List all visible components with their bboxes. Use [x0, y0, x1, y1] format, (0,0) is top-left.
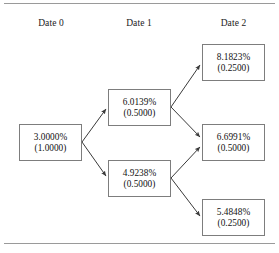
node-probability-value: (0.2500): [218, 218, 250, 229]
edge-n1u-to-n2u: [171, 65, 200, 107]
edge-n0-to-n1u: [82, 109, 106, 142]
tree-node-date1-down: 4.9238% (0.5000): [108, 160, 171, 197]
node-probability-value: (1.0000): [35, 143, 67, 154]
node-rate-value: 6.6991%: [217, 132, 250, 143]
node-probability-value: (0.5000): [218, 143, 250, 154]
tree-node-date2-up: 8.1823% (0.2500): [202, 44, 265, 81]
node-rate-value: 8.1823%: [217, 52, 250, 63]
tree-node-date2-middle: 6.6991% (0.5000): [202, 124, 265, 161]
node-rate-value: 3.0000%: [34, 132, 67, 143]
node-probability-value: (0.2500): [218, 63, 250, 74]
edge-n1d-to-n2m: [171, 147, 200, 178]
edge-n0-to-n1d: [82, 142, 106, 176]
edge-n1u-to-n2m: [171, 107, 200, 137]
node-probability-value: (0.5000): [124, 108, 156, 119]
node-rate-value: 4.9238%: [123, 168, 156, 179]
interest-rate-tree-figure: Date 0 Date 1 Date 2 3.0000% (1.0000) 6.…: [0, 0, 279, 253]
node-rate-value: 6.0139%: [123, 97, 156, 108]
node-rate-value: 5.4848%: [217, 207, 250, 218]
edge-n1d-to-n2d: [171, 178, 200, 216]
tree-node-date2-down: 5.4848% (0.2500): [202, 199, 265, 236]
tree-node-date0: 3.0000% (1.0000): [19, 124, 82, 161]
node-probability-value: (0.5000): [124, 179, 156, 190]
tree-node-date1-up: 6.0139% (0.5000): [108, 89, 171, 126]
